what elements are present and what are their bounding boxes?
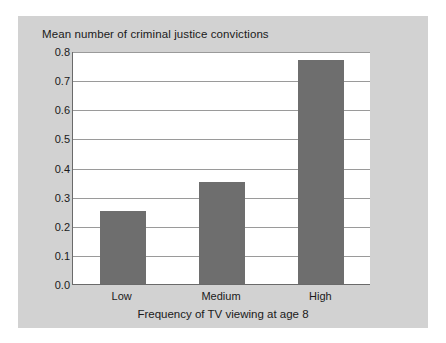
y-axis-tick-labels: 0.00.10.20.30.40.50.60.70.8 bbox=[30, 52, 70, 285]
x-axis-tick-label: Low bbox=[112, 290, 132, 302]
y-axis-tick-label: 0.3 bbox=[36, 192, 70, 204]
chart-panel: Mean number of criminal justice convicti… bbox=[18, 16, 428, 328]
y-axis-tick-label: 0.7 bbox=[36, 75, 70, 87]
y-axis-tick-label: 0.6 bbox=[36, 104, 70, 116]
y-axis-tick-label: 0.0 bbox=[36, 279, 70, 291]
bar bbox=[298, 60, 344, 284]
plot-area bbox=[72, 52, 370, 285]
x-axis-title: Frequency of TV viewing at age 8 bbox=[18, 308, 428, 320]
chart-title: Mean number of criminal justice convicti… bbox=[42, 28, 269, 40]
x-axis-tick-label: High bbox=[309, 290, 332, 302]
bar-series bbox=[73, 52, 370, 284]
x-axis-tick-label: Medium bbox=[201, 290, 240, 302]
bar bbox=[199, 182, 245, 284]
y-axis-tick-label: 0.8 bbox=[36, 46, 70, 58]
y-axis-tick-label: 0.5 bbox=[36, 133, 70, 145]
y-axis-tick-label: 0.2 bbox=[36, 221, 70, 233]
y-axis-tick-label: 0.1 bbox=[36, 250, 70, 262]
y-axis-tick-label: 0.4 bbox=[36, 163, 70, 175]
bar bbox=[100, 211, 146, 284]
chart-figure: Mean number of criminal justice convicti… bbox=[0, 0, 446, 343]
